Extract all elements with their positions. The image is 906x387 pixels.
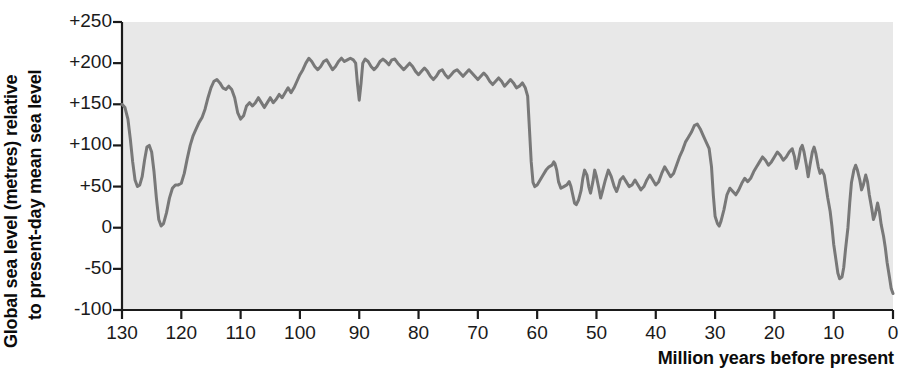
y-tick-label: 0 — [56, 216, 112, 238]
sea-level-chart-figure: Global sea level (metres) relative to pr… — [0, 0, 906, 387]
x-tick-label: 30 — [704, 322, 725, 344]
y-axis-title-line-2: to present-day mean sea level — [25, 0, 45, 320]
x-tick-label: 130 — [106, 322, 138, 344]
y-tick-label: -50 — [56, 257, 112, 279]
x-tick-label: 80 — [408, 322, 429, 344]
y-tick-label: +50 — [56, 175, 112, 197]
x-tick-label: 110 — [225, 322, 255, 344]
x-tick-label: 70 — [467, 322, 488, 344]
x-tick-label: 40 — [645, 322, 666, 344]
x-tick-label: 20 — [764, 322, 785, 344]
y-tick-label: +150 — [56, 92, 112, 114]
x-tick-label: 10 — [823, 322, 844, 344]
x-tick-label: 120 — [165, 322, 197, 344]
y-tick-label-group: +250+200+150+100+500-50-100 — [52, 0, 112, 340]
y-axis-title: Global sea level (metres) relative to pr… — [0, 0, 58, 330]
y-tick-label: +100 — [56, 133, 112, 155]
y-tick-label: -100 — [56, 298, 112, 320]
x-tick-label: 60 — [527, 322, 548, 344]
x-tick-label: 0 — [888, 322, 899, 344]
x-tick-label: 100 — [284, 322, 316, 344]
x-tick-label: 50 — [586, 322, 607, 344]
x-axis-title: Million years before present — [658, 348, 894, 369]
plot-background — [122, 22, 893, 310]
y-axis-title-line-1: Global sea level (metres) relative — [1, 20, 21, 348]
y-tick-label: +200 — [56, 51, 112, 73]
x-tick-label: 90 — [349, 322, 370, 344]
y-tick-label: +250 — [56, 10, 112, 32]
